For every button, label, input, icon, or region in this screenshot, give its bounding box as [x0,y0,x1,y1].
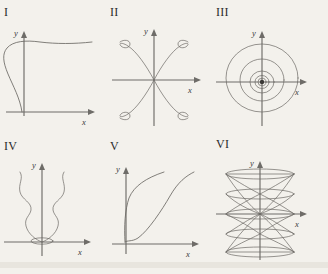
parametric-curves-figure: I x y II x y [0,0,328,274]
y-axis-arrow-6 [257,161,263,168]
x-axis-arrow-2 [194,77,201,83]
y-axis-label-3: y [251,28,256,38]
panel-2: II x y [106,6,210,136]
y-axis-arrow-2 [151,29,157,36]
y-axis-arrow-1 [21,31,27,38]
panel-6: VI [212,138,316,268]
curve-4b [42,172,64,242]
x-axis-arrow-5 [192,241,199,247]
panel-label-2: II [110,6,119,18]
y-axis-label-1: y [13,28,18,38]
curve-5a [125,172,164,242]
x-axis-label-1: x [81,117,86,127]
curve-1 [4,41,92,112]
y-axis-arrow-3 [259,31,265,38]
plot-area-5: x y [106,154,210,270]
x-axis-label-5: x [185,249,190,259]
panel-5: V x y [106,140,210,270]
x-axis-label-2: x [187,85,192,95]
y-axis-label-6: y [249,158,254,168]
panel-label-1: I [4,6,8,18]
x-axis-arrow-6 [300,211,307,217]
y-axis-label-5: y [115,164,120,174]
curve-4a [20,172,42,242]
plot-area-4: x y [0,154,104,270]
panel-1: I x y [0,6,104,136]
y-axis-arrow-4 [39,163,45,170]
plot-area-2: x y [106,20,210,136]
panel-3: III x y [212,6,316,136]
panel-4: IV x y [0,140,104,270]
x-axis-label-4: x [77,247,82,257]
x-axis-arrow-3 [300,79,307,85]
y-axis-arrow-5 [123,167,129,174]
x-axis-arrow-4 [84,239,91,245]
plot-area-1: x y [0,20,104,136]
panel-label-5: V [110,140,119,152]
panel-label-6: VI [216,138,229,150]
x-axis-label-6: x [294,219,299,229]
scan-edge-smudge [0,262,328,268]
x-axis-arrow-1 [88,109,95,115]
panel-label-3: III [216,6,229,18]
panel-label-4: IV [4,140,17,152]
plot-area-6: x y [212,152,316,268]
x-axis-label-3: x [294,87,299,97]
plot-area-3: x y [212,20,316,136]
y-axis-label-2: y [143,26,148,36]
curve-5b [125,172,194,242]
y-axis-label-4: y [31,160,36,170]
